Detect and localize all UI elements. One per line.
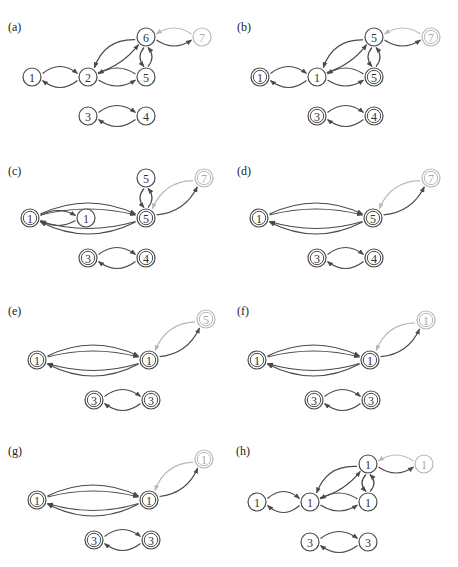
- node-label: 1: [34, 494, 40, 508]
- edge-arrow: [321, 546, 358, 553]
- edge-arrow: [328, 106, 364, 113]
- edge-arrow: [160, 468, 198, 496]
- graph-node: 3: [142, 531, 160, 549]
- edge-arrow: [157, 187, 198, 215]
- node-label: 5: [203, 313, 209, 327]
- edge-arrow: [155, 322, 195, 351]
- edge-arrow: [105, 390, 141, 397]
- graph-node: 4: [365, 107, 383, 125]
- edge-arrow: [368, 48, 372, 67]
- edge-arrow: [270, 209, 363, 215]
- panel-h: (h)1111133: [236, 444, 433, 553]
- graph-node: 7: [195, 169, 213, 187]
- panel-label: (b): [237, 20, 251, 34]
- edge-arrow: [140, 189, 144, 208]
- node-label: 5: [143, 212, 149, 226]
- node-label: 3: [91, 534, 97, 548]
- node-label: 1: [254, 354, 260, 368]
- edge-arrow: [328, 262, 364, 269]
- edge-arrow: [379, 467, 414, 473]
- node-label: 3: [85, 110, 91, 124]
- node-label: 5: [371, 71, 377, 85]
- node-label: 4: [143, 110, 149, 124]
- nodes: 11133: [28, 450, 213, 549]
- edge-arrow: [268, 492, 300, 499]
- node-label: 3: [148, 394, 154, 408]
- graph-node: 1: [361, 351, 379, 369]
- graph-node: 5: [137, 169, 155, 187]
- graph-node: 1: [251, 68, 269, 86]
- edges: [48, 462, 198, 550]
- edge-arrow: [271, 81, 307, 88]
- edge-arrow: [268, 364, 360, 371]
- graph-node: 7: [422, 28, 440, 46]
- graph-node: 3: [308, 107, 326, 125]
- node-label: 1: [314, 71, 320, 85]
- edge-arrow: [379, 455, 414, 461]
- graph-node: 5: [364, 209, 382, 227]
- node-label: 4: [371, 252, 377, 266]
- edge-arrow: [385, 40, 421, 46]
- graph-node: 3: [359, 533, 377, 551]
- node-label: 4: [143, 252, 149, 266]
- edge-arrow: [376, 323, 415, 351]
- graph-node: 5: [365, 28, 383, 46]
- edge-arrow: [385, 28, 421, 34]
- edge-arrow: [270, 222, 363, 229]
- graph-node: 1: [250, 209, 268, 227]
- graph-node: 7: [422, 169, 440, 187]
- graph-node: 5: [197, 310, 215, 328]
- edge-arrow: [148, 189, 152, 208]
- edge-arrow: [105, 544, 141, 551]
- edge-arrow: [321, 532, 358, 539]
- node-label: 3: [314, 252, 320, 266]
- graph-node: 1: [301, 493, 319, 511]
- node-label: 1: [146, 494, 152, 508]
- node-label: 7: [428, 31, 434, 45]
- edge-arrow: [148, 48, 152, 67]
- node-label: 1: [34, 354, 40, 368]
- node-label: 7: [199, 31, 205, 45]
- graph-node: 1: [415, 455, 433, 473]
- graph-node: 6: [137, 28, 155, 46]
- edge-arrow: [317, 466, 357, 493]
- node-label: 5: [371, 31, 377, 45]
- panel-f: (f)11133: [237, 304, 435, 411]
- node-label: 3: [311, 394, 317, 408]
- edges: [48, 322, 200, 411]
- edge-arrow: [155, 462, 193, 490]
- graph-node: 5: [137, 68, 155, 86]
- edge-arrow: [105, 530, 141, 537]
- panel-a: (a)1256734: [8, 20, 211, 127]
- graph-node: 1: [77, 209, 95, 227]
- node-label: 3: [314, 110, 320, 124]
- node-label: 3: [368, 394, 374, 408]
- edge-arrow: [48, 504, 139, 511]
- panel-label: (h): [236, 444, 250, 458]
- graph-node: 1: [359, 493, 377, 511]
- edges: [41, 181, 198, 269]
- graph-node: 3: [85, 391, 103, 409]
- panel-d: (d)15734: [237, 164, 440, 269]
- graph-node: 2: [79, 68, 97, 86]
- node-label: 1: [254, 496, 260, 510]
- edge-arrow: [384, 187, 425, 215]
- graph-node: 1: [140, 491, 158, 509]
- panel-label: (e): [8, 304, 21, 318]
- graph-node: 1: [308, 68, 326, 86]
- node-label: 1: [256, 212, 262, 226]
- edge-arrow: [370, 475, 374, 492]
- graph-node: 1: [195, 450, 213, 468]
- panel-e: (e)11533: [8, 304, 215, 411]
- panel-label: (d): [237, 164, 251, 178]
- graph-node: 5: [137, 209, 155, 227]
- node-label: 1: [421, 458, 427, 472]
- node-label: 3: [365, 536, 371, 550]
- edge-arrow: [325, 390, 361, 397]
- edge-arrow: [99, 120, 136, 127]
- edge-arrow: [48, 491, 139, 497]
- edge-arrow: [328, 80, 364, 86]
- graph-node: 1: [23, 68, 41, 86]
- node-label: 3: [91, 394, 97, 408]
- edges: [268, 323, 420, 411]
